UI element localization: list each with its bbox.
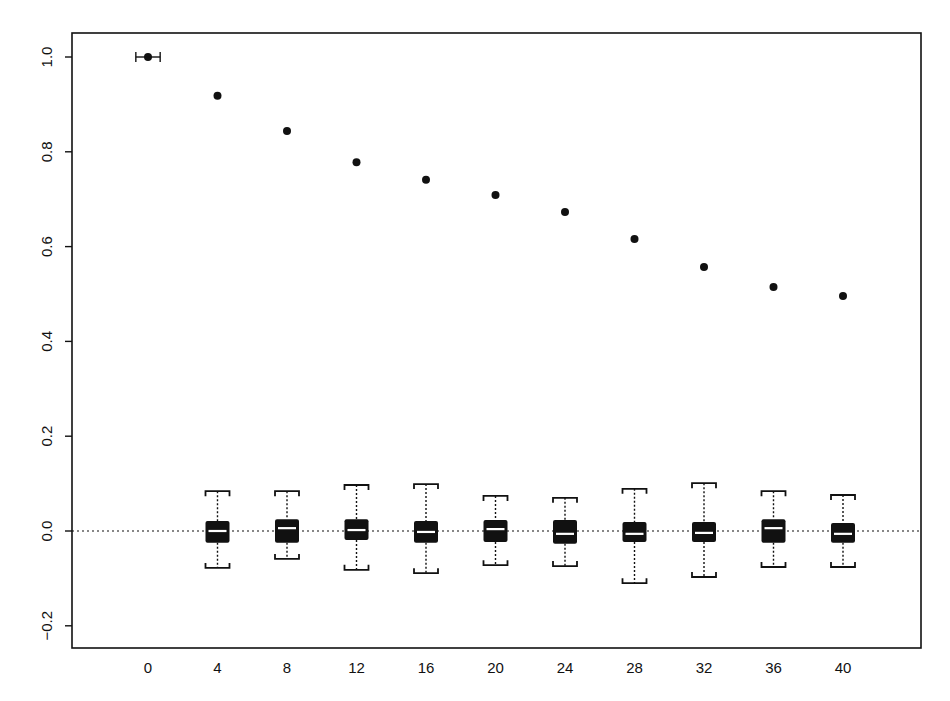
boxplot (553, 498, 577, 566)
y-tick-label: 1.0 (38, 47, 55, 68)
x-tick-label: 24 (557, 659, 574, 676)
box (762, 519, 786, 543)
box (484, 520, 508, 542)
data-point (422, 176, 430, 184)
boxplot (275, 491, 299, 559)
boxplot (762, 491, 786, 567)
lower-cap (553, 561, 577, 566)
plot-border (72, 33, 921, 648)
data-point (839, 292, 847, 300)
box (275, 519, 299, 543)
boxplot (414, 484, 438, 573)
x-tick-label: 20 (487, 659, 504, 676)
x-tick-label: 0 (144, 659, 152, 676)
y-tick-label: 0.8 (38, 141, 55, 162)
x-tick-label: 28 (626, 659, 643, 676)
y-tick-label: 0.4 (38, 331, 55, 352)
x-tick-label: 12 (348, 659, 365, 676)
y-tick-label: 0.6 (38, 236, 55, 257)
y-tick-label: 0.0 (38, 521, 55, 542)
boxplot (692, 483, 716, 577)
data-point (561, 208, 569, 216)
x-tick-label: 4 (213, 659, 221, 676)
lower-cap (414, 568, 438, 573)
data-point (353, 158, 361, 166)
boxplot (623, 489, 647, 583)
y-tick-label: −0.2 (38, 611, 55, 641)
x-tick-label: 8 (283, 659, 291, 676)
box (553, 520, 577, 544)
boxplot-series (206, 483, 856, 583)
y-tick-label: 0.2 (38, 426, 55, 447)
x-tick-label: 36 (765, 659, 782, 676)
data-point (214, 92, 222, 100)
plot-frame (72, 33, 921, 648)
y-axis: −0.20.00.20.40.60.81.0 (38, 47, 72, 641)
box (623, 522, 647, 542)
boxplot (831, 495, 855, 567)
boxplot (345, 485, 369, 570)
data-point (283, 127, 291, 135)
x-tick-label: 40 (835, 659, 852, 676)
boxplot (206, 491, 230, 568)
point-series (144, 53, 847, 300)
boxplot (484, 496, 508, 565)
x-tick-label: 32 (696, 659, 713, 676)
x-tick-label: 16 (418, 659, 435, 676)
chart-canvas: −0.20.00.20.40.60.81.0 04812162024283236… (0, 0, 950, 701)
x-axis: 0481216202428323640 (144, 659, 852, 676)
data-point (631, 235, 639, 243)
data-point (492, 191, 500, 199)
data-point (700, 263, 708, 271)
data-point (770, 283, 778, 291)
